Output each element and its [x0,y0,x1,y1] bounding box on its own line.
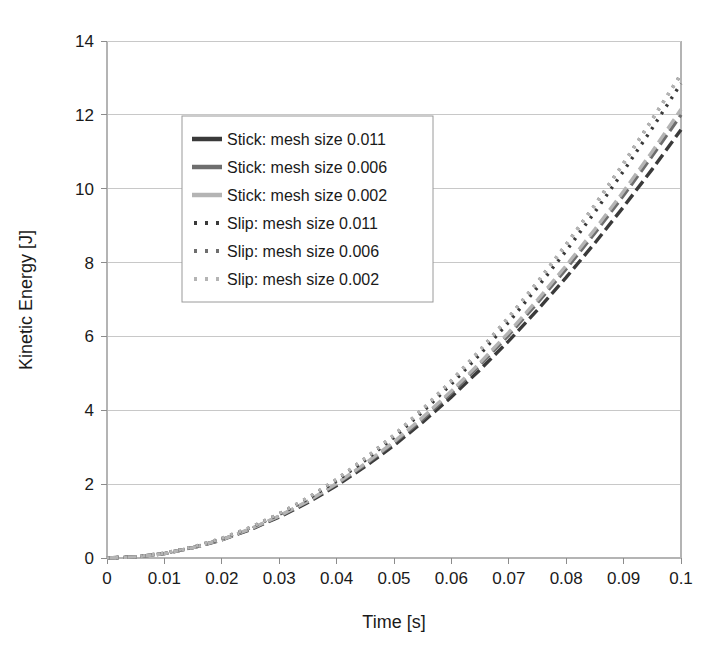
chart-background [0,0,723,651]
x-tick-label-10: 0.1 [669,569,693,588]
y-tick-label-3: 6 [85,327,94,346]
x-tick-label-1: 0.01 [148,569,181,588]
y-tick-label-7: 14 [75,32,94,51]
legend-label-1: Stick: mesh size 0.006 [227,159,387,176]
x-tick-label-2: 0.02 [205,569,238,588]
x-tick-label-8: 0.08 [550,569,583,588]
y-tick-label-4: 8 [85,254,94,273]
y-tick-label-2: 4 [85,401,94,420]
chart-container: 00.010.020.030.040.050.060.070.080.090.1… [0,0,723,651]
legend-label-2: Stick: mesh size 0.002 [227,187,387,204]
x-tick-label-3: 0.03 [263,569,296,588]
x-tick-label-9: 0.09 [607,569,640,588]
y-tick-label-5: 10 [75,180,94,199]
legend-label-0: Stick: mesh size 0.011 [227,131,386,148]
legend-label-3: Slip: mesh size 0.011 [227,215,378,232]
chart-legend[interactable]: Stick: mesh size 0.011Stick: mesh size 0… [182,116,433,302]
y-axis-title: Kinetic Energy [J] [16,230,36,370]
legend-label-5: Slip: mesh size 0.002 [227,271,379,288]
x-axis-title: Time [s] [362,612,425,632]
x-tick-label-4: 0.04 [320,569,353,588]
kinetic-energy-line-chart: 00.010.020.030.040.050.060.070.080.090.1… [0,0,723,651]
x-tick-label-6: 0.06 [435,569,468,588]
y-tick-label-1: 2 [85,475,94,494]
x-tick-label-5: 0.05 [377,569,410,588]
x-tick-label-0: 0 [102,569,111,588]
y-tick-label-0: 0 [85,549,94,568]
y-tick-label-6: 12 [75,106,94,125]
legend-label-4: Slip: mesh size 0.006 [227,243,379,260]
x-tick-label-7: 0.07 [492,569,525,588]
